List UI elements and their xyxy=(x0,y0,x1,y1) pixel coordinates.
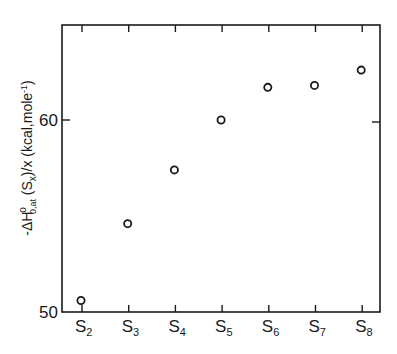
data-point-s8 xyxy=(358,66,365,73)
data-points xyxy=(77,66,364,304)
data-point-s2 xyxy=(77,297,84,304)
x-tick-label: S7 xyxy=(309,317,326,338)
x-tick-label: S8 xyxy=(355,317,372,338)
y-axis-title: -ΔHo0,at (Sx)/x (kcal,mole-1) xyxy=(17,80,38,236)
x-tick-label: S5 xyxy=(215,317,232,338)
y-tick-label: 50 xyxy=(39,303,58,322)
x-tick-label: S6 xyxy=(262,317,279,338)
x-tick-label: S2 xyxy=(75,317,92,338)
data-point-s5 xyxy=(218,116,225,123)
x-tick-label: S4 xyxy=(168,317,185,338)
x-tick-label: S3 xyxy=(122,317,139,338)
data-point-s6 xyxy=(264,84,271,91)
y-axis-label: -ΔHo0,at (Sx)/x (kcal,mole-1) xyxy=(17,80,38,236)
x-axis-ticks: S2S3S4S5S6S7S8 xyxy=(75,25,373,338)
data-point-s3 xyxy=(124,220,131,227)
data-point-s4 xyxy=(171,166,178,173)
plot-frame xyxy=(62,25,380,312)
chart: S2S3S4S5S6S7S8 5060 -ΔHo0,at (Sx)/x (kca… xyxy=(0,0,397,354)
y-axis-ticks: 5060 xyxy=(39,111,380,322)
y-tick-label: 60 xyxy=(39,111,58,130)
plot-border xyxy=(62,25,380,312)
data-point-s7 xyxy=(311,82,318,89)
